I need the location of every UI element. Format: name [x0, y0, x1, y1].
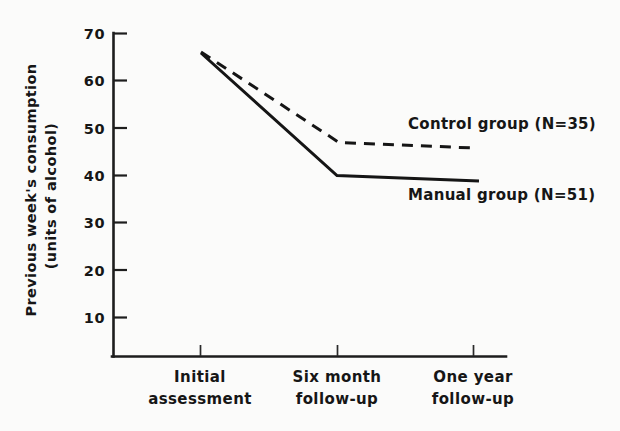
series-line-control-group [201, 52, 474, 148]
x-label-initial-assessment-line2: assessment [148, 390, 252, 408]
x-label-six-month-follow-up-line2: follow-up [296, 390, 379, 408]
y-axis-label-line2: (units of alcohol) [43, 123, 59, 270]
x-label-initial-assessment-line1: Initial [174, 368, 226, 386]
chart-figure: Previous week's consumption (units of al… [0, 0, 620, 431]
legend: Control group (N=35) Manual group (N=51) [408, 115, 596, 204]
x-axis-category-labels: Initial assessment Six month follow-up O… [148, 368, 514, 408]
x-label-one-year-follow-up-line2: follow-up [432, 390, 515, 408]
line-chart-canvas: Previous week's consumption (units of al… [0, 0, 620, 431]
x-label-six-month-follow-up-line1: Six month [293, 368, 382, 386]
y-tick-label-70: 70 [84, 26, 105, 42]
y-tick-label-10: 10 [84, 310, 105, 326]
y-tick-label-20: 20 [84, 263, 105, 279]
y-tick-label-50: 50 [84, 121, 105, 137]
y-axis-tick-labels: 70 60 50 40 30 20 10 [84, 26, 105, 326]
x-axis-ticks [201, 345, 474, 356]
x-label-one-year-follow-up-line1: One year [433, 368, 513, 386]
y-axis-label-line1: Previous week's consumption [23, 63, 39, 316]
y-tick-label-40: 40 [84, 168, 105, 184]
y-tick-label-30: 30 [84, 215, 105, 231]
y-axis-ticks [113, 34, 127, 318]
y-tick-label-60: 60 [84, 73, 105, 89]
legend-label-manual-group: Manual group (N=51) [408, 186, 595, 204]
legend-label-control-group: Control group (N=35) [408, 115, 596, 133]
y-axis-label: Previous week's consumption (units of al… [23, 63, 59, 316]
